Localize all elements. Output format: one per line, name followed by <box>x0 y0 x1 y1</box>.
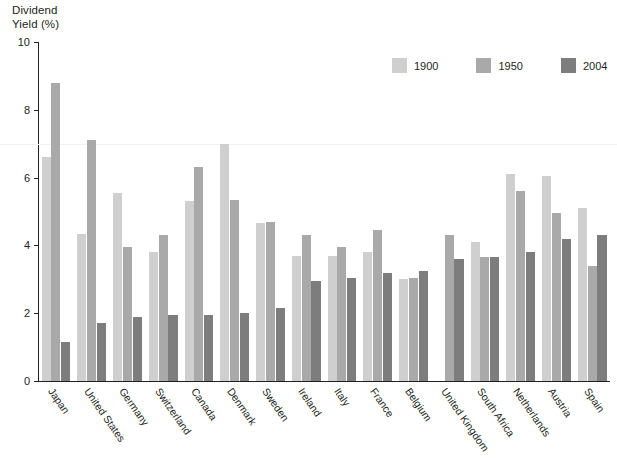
bar <box>506 174 515 381</box>
bar <box>552 213 561 381</box>
y-axis-tick-label: 8 <box>6 105 30 116</box>
bar-group <box>431 42 467 381</box>
bar <box>194 167 203 381</box>
bar <box>42 157 51 381</box>
bar <box>123 247 132 381</box>
bar <box>61 342 70 381</box>
bar <box>204 315 213 381</box>
bar <box>292 256 301 381</box>
bar-group <box>74 42 110 381</box>
bar-group <box>145 42 181 381</box>
bar <box>311 281 320 381</box>
bar <box>51 83 60 381</box>
bar <box>347 278 356 381</box>
bar-group <box>288 42 324 381</box>
bar <box>445 235 454 381</box>
bar <box>526 252 535 381</box>
x-axis-category-label: Italy <box>332 386 352 408</box>
chart-legend: 190019502004 <box>392 58 607 73</box>
legend-label: 1950 <box>498 60 522 72</box>
y-axis-tick-label: 10 <box>6 37 30 48</box>
x-axis-category-label: France <box>368 386 396 419</box>
bar <box>454 259 463 381</box>
bar-group <box>360 42 396 381</box>
bar <box>542 176 551 381</box>
y-axis-tick-label: 4 <box>6 240 30 251</box>
bar <box>266 222 275 381</box>
bar <box>337 247 346 381</box>
chart-root: DividendYield (%) 0246810 190019502004 J… <box>0 0 617 466</box>
bar <box>133 317 142 381</box>
bar-group <box>503 42 539 381</box>
x-axis-category-label: Sweden <box>260 386 291 423</box>
x-axis-category-label: Spain <box>582 386 606 414</box>
bar <box>302 235 311 381</box>
x-axis-category-label: Switzerland <box>153 386 193 437</box>
bar <box>149 252 158 381</box>
bar <box>185 201 194 381</box>
plot-area: 0246810 <box>38 42 610 381</box>
bar-group <box>38 42 74 381</box>
bar-group <box>253 42 289 381</box>
bar <box>87 140 96 381</box>
legend-swatch <box>392 58 407 73</box>
legend-item: 2004 <box>561 58 607 73</box>
y-axis-title-line2: Yield (%) <box>12 18 59 30</box>
bar <box>409 278 418 381</box>
legend-label: 1900 <box>414 60 438 72</box>
bar <box>220 144 229 381</box>
y-axis-tick-label: 6 <box>6 173 30 184</box>
y-axis-title: DividendYield (%) <box>12 4 59 31</box>
bar <box>113 193 122 381</box>
x-axis-category-label: Austria <box>546 386 574 419</box>
bar <box>471 242 480 381</box>
legend-item: 1900 <box>392 58 438 73</box>
y-axis-title-line1: Dividend <box>12 4 58 16</box>
bar-group <box>324 42 360 381</box>
x-axis-category-label: Belgium <box>403 386 434 423</box>
bar <box>419 271 428 381</box>
legend-swatch <box>476 58 491 73</box>
bar <box>597 235 606 381</box>
bar <box>490 257 499 381</box>
x-axis-category-label: Germany <box>117 386 151 428</box>
bar <box>230 200 239 381</box>
bar <box>168 315 177 381</box>
bar <box>399 279 408 381</box>
bar-group <box>467 42 503 381</box>
legend-swatch <box>561 58 576 73</box>
bar <box>240 313 249 381</box>
bar <box>516 191 525 381</box>
x-axis-category-label: Canada <box>189 386 219 422</box>
y-axis-tick-label: 0 <box>6 376 30 387</box>
bar <box>328 256 337 381</box>
bar <box>97 323 106 381</box>
bar <box>578 208 587 381</box>
x-axis-category-label: Denmark <box>225 386 258 427</box>
bar-group <box>396 42 432 381</box>
bar <box>363 252 372 381</box>
y-axis-tick <box>34 381 39 382</box>
bar <box>588 266 597 381</box>
legend-label: 2004 <box>583 60 607 72</box>
bar <box>373 230 382 381</box>
x-axis-category-label: Ireland <box>296 386 323 419</box>
bar-group <box>217 42 253 381</box>
bar <box>256 223 265 381</box>
legend-item: 1950 <box>476 58 522 73</box>
x-axis-category-label: Japan <box>46 386 71 416</box>
x-axis-line <box>38 381 610 382</box>
bar <box>77 234 86 381</box>
bar-group <box>539 42 575 381</box>
bar <box>383 273 392 381</box>
bar <box>480 257 489 381</box>
bar <box>562 239 571 381</box>
bar-group <box>574 42 610 381</box>
bar-group <box>110 42 146 381</box>
bar-group <box>181 42 217 381</box>
bar <box>159 235 168 381</box>
bar <box>276 308 285 381</box>
y-axis-tick-label: 2 <box>6 308 30 319</box>
